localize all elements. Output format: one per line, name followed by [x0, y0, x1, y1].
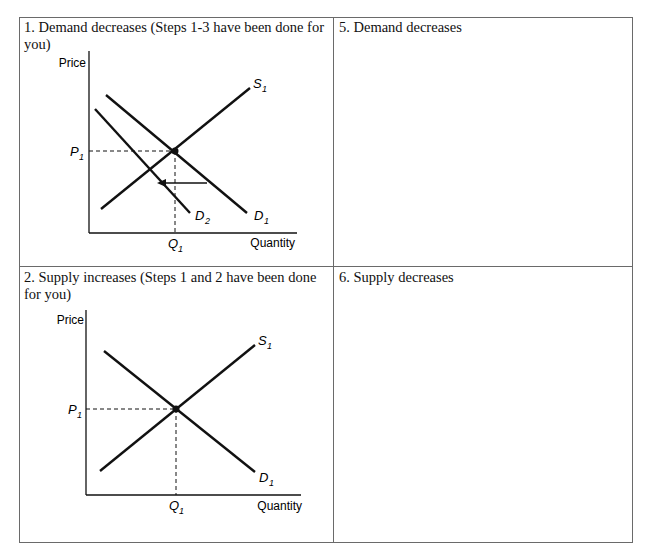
chart1-curve-labels: S 1 D 1 D 2 P 1 Q 1 — [70, 76, 269, 254]
d1-label: D — [254, 208, 263, 223]
p1-label: P — [68, 402, 77, 417]
quantity-axis-label: Quantity — [250, 236, 295, 250]
q1-label-sub: 1 — [179, 506, 184, 516]
q1-label: Q — [169, 498, 179, 513]
chart-demand-decreases: Price Quantity S 1 D 1 D 2 P 1 Q 1 — [59, 51, 297, 254]
d1-label-sub: 1 — [269, 478, 274, 488]
s1-label: S — [258, 333, 267, 348]
q1-label: Q — [168, 236, 178, 251]
quantity-axis-label: Quantity — [257, 499, 302, 513]
chart-supply-increases: Price Quantity S 1 D 1 P 1 Q 1 — [57, 310, 302, 516]
demand-curve-d1 — [104, 351, 255, 472]
p1-label: P — [70, 144, 79, 159]
price-axis-label: Price — [57, 313, 85, 327]
p1-label-sub: 1 — [79, 152, 84, 162]
d1-label: D — [259, 470, 268, 485]
equilibrium-point — [172, 148, 179, 155]
s1-label-sub: 1 — [262, 84, 267, 94]
price-axis-label: Price — [59, 56, 87, 70]
q1-label-sub: 1 — [178, 244, 183, 254]
s1-label: S — [253, 76, 262, 91]
equilibrium-point — [173, 406, 180, 413]
p1-label-sub: 1 — [77, 410, 82, 420]
charts-layer: Price Quantity S 1 D 1 D 2 P 1 Q 1 Price… — [0, 0, 647, 553]
d2-label: D — [195, 208, 204, 223]
d1-label-sub: 1 — [264, 216, 269, 226]
d2-label-sub: 2 — [204, 216, 210, 226]
s1-label-sub: 1 — [267, 341, 272, 351]
chart2-curve-labels: S 1 D 1 P 1 Q 1 — [68, 333, 274, 516]
